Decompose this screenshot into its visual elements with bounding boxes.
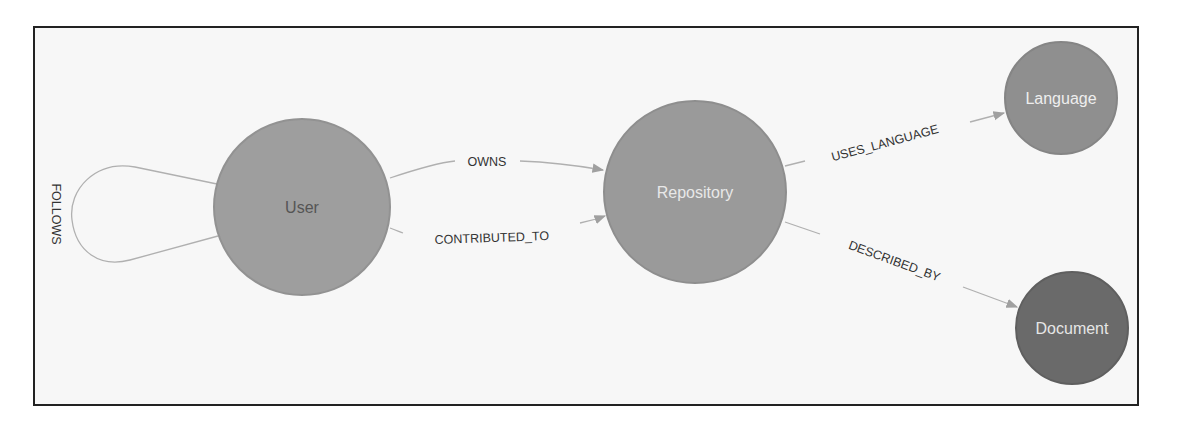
edge-described-by[interactable] (785, 222, 820, 234)
edge-uses-language-head[interactable] (970, 113, 1004, 122)
edge-label-uses-language: USES_LANGUAGE (830, 122, 940, 164)
edge-described-by-head[interactable] (963, 287, 1017, 307)
node-language[interactable]: Language (1005, 42, 1117, 154)
edge-contributed-to[interactable] (390, 228, 403, 233)
edge-label-contributed-to: CONTRIBUTED_TO (434, 229, 549, 247)
node-label-language: Language (1025, 90, 1096, 107)
edge-owns[interactable] (390, 161, 455, 178)
edge-owns-head[interactable] (520, 161, 603, 170)
node-label-user: User (285, 199, 319, 216)
edge-label-described-by: DESCRIBED_BY (847, 238, 943, 284)
edge-uses-language[interactable] (785, 161, 805, 166)
node-repository[interactable]: Repository (604, 101, 786, 283)
edge-label-owns: OWNS (468, 155, 507, 169)
edge-label-follows: FOLLOWS (49, 183, 63, 244)
edge-contributed-to-head[interactable] (580, 216, 605, 223)
edge-follows[interactable] (72, 166, 218, 262)
node-label-document: Document (1036, 320, 1109, 337)
graph-diagram: FOLLOWS OWNS CONTRIBUTED_TO USES_LANGUAG… (0, 0, 1178, 426)
node-document[interactable]: Document (1016, 272, 1128, 384)
node-label-repository: Repository (657, 184, 733, 201)
node-user[interactable]: User (214, 119, 390, 295)
